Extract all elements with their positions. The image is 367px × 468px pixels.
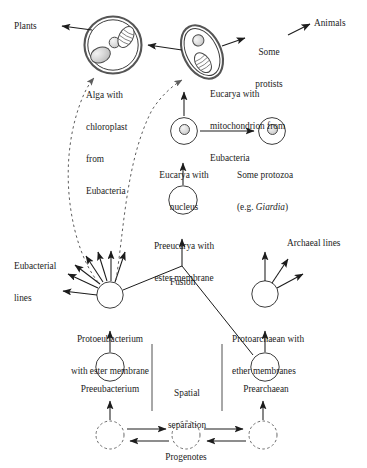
label-alga-line1: Alga with bbox=[86, 90, 127, 101]
label-some-protists-line1: Some bbox=[246, 47, 292, 58]
label-preeucarya: Preeucarya with ester membrane bbox=[140, 220, 228, 305]
node-protoeubacterium bbox=[97, 282, 123, 308]
label-fusion: Fusion bbox=[170, 277, 195, 288]
edge-eucarya-to-alga bbox=[148, 45, 182, 50]
label-spatial-separation: Spatial separation bbox=[156, 367, 218, 452]
label-some-protozoa: Some protozoa (e.g. Giardia) bbox=[237, 149, 293, 234]
label-animals: Animals bbox=[314, 18, 346, 29]
node-alga bbox=[85, 17, 142, 74]
label-protoeubacterium-line1: Protoeubacterium bbox=[32, 334, 188, 345]
node-progenote-left bbox=[96, 421, 124, 449]
label-protozoa-suffix: ) bbox=[285, 202, 288, 212]
label-protozoa-line1: Some protozoa bbox=[237, 170, 293, 181]
label-spatial-separation-line1: Spatial bbox=[156, 388, 218, 399]
label-eucarya-mito-line2: mitochondrion from bbox=[210, 121, 285, 132]
label-archaeal-lines: Archaeal lines bbox=[287, 238, 340, 249]
label-alga-line2: chloroplast bbox=[86, 122, 127, 133]
label-protoarchaean-line2: ether membranes bbox=[232, 366, 304, 377]
label-alga-line4: Eubacteria bbox=[86, 186, 127, 197]
label-eubacterial-lines-line1: Eubacterial bbox=[14, 261, 56, 272]
label-preeucarya-line1: Preeucarya with bbox=[140, 241, 228, 252]
label-prearchaean: Prearchaean bbox=[223, 384, 309, 395]
label-progenotes: Progenotes bbox=[145, 452, 227, 463]
label-spatial-separation-line2: separation bbox=[156, 420, 218, 431]
organelle-nucleus bbox=[180, 125, 190, 135]
edge-alga-to-plants bbox=[62, 26, 92, 30]
diagram-canvas: Plants Animals Some protists Alga with c… bbox=[0, 0, 367, 468]
label-protozoa-prefix: (e.g. bbox=[237, 202, 256, 212]
label-eucarya-nucleus-line2: nucleus bbox=[144, 202, 224, 213]
label-protozoa-genus: Giardia bbox=[256, 202, 285, 212]
label-eucarya-mito-line1: Eucarya with bbox=[210, 89, 285, 100]
node-eucarya-with-nucleus bbox=[171, 118, 198, 145]
label-plants: Plants bbox=[14, 21, 37, 32]
label-preeubacterium: Preeubacterium bbox=[58, 384, 162, 395]
node-progenote-right bbox=[249, 421, 277, 449]
label-alga: Alga with chloroplast from Eubacteria bbox=[86, 69, 127, 217]
label-eucarya-nucleus-line1: Eucarya with bbox=[144, 170, 224, 181]
node-protoarchaean bbox=[252, 281, 278, 307]
label-protoarchaean-line1: Protoarchaean with bbox=[232, 334, 304, 345]
label-alga-line3: from bbox=[86, 154, 127, 165]
edge-eucarya-to-protists bbox=[222, 38, 245, 46]
label-protozoa-line2: (e.g. Giardia) bbox=[237, 202, 293, 213]
label-eubacterial-lines-line2: lines bbox=[14, 293, 56, 304]
